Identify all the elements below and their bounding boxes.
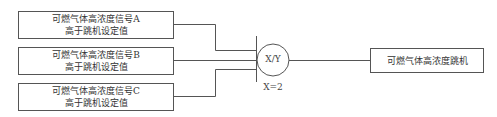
voter-symbol: X/Y xyxy=(257,54,289,64)
input-a-line2: 高于跳机设定值 xyxy=(65,25,128,37)
output-box: 可燃气体高浓度跳机 xyxy=(370,48,484,73)
input-b-line2: 高于跳机设定值 xyxy=(65,61,128,73)
input-b-line1: 可燃气体高浓度信号B xyxy=(52,49,140,61)
input-c-line1: 可燃气体高浓度信号C xyxy=(52,85,140,97)
output-label: 可燃气体高浓度跳机 xyxy=(387,55,468,67)
input-box-b: 可燃气体高浓度信号B 高于跳机设定值 xyxy=(18,47,174,75)
input-box-c: 可燃气体高浓度信号C 高于跳机设定值 xyxy=(18,83,174,111)
input-box-a: 可燃气体高浓度信号A 高于跳机设定值 xyxy=(18,11,174,39)
input-c-line2: 高于跳机设定值 xyxy=(65,97,128,109)
input-a-line1: 可燃气体高浓度信号A xyxy=(52,13,140,25)
voter-condition: X=2 xyxy=(255,82,291,92)
